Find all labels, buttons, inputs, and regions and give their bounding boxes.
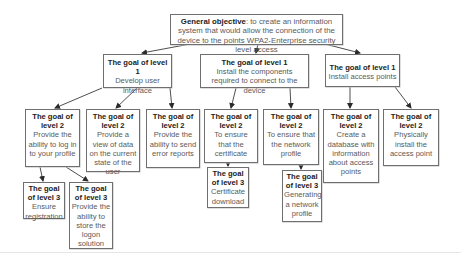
level2-text: Create a database with information about… (326, 130, 376, 176)
level2-text: Provide the ability to log in to your pr… (28, 130, 77, 158)
level2-text: Physically install the access point (386, 130, 436, 158)
level2-goal-view-data: The goal of level 2 Provide a view of da… (86, 109, 140, 172)
level2-goal-install-access-point: The goal of level 2 Physically install t… (383, 109, 439, 166)
level1-text: Install the components required to conne… (203, 67, 306, 95)
level3-goal-certificate-download: The goal of level 3 Certificate download (207, 167, 249, 208)
level2-title: The goal of level 2 (266, 112, 316, 130)
general-objective-label: General objective (181, 17, 246, 26)
level3-title: The goal of level 3 (25, 184, 63, 202)
level2-text: To ensure that the certificate (207, 130, 255, 158)
level2-title: The goal of level 2 (326, 112, 376, 130)
level1-text: Develop user interface (106, 76, 169, 94)
level1-goal-install-access-points: The goal of level 1 Install access point… (325, 54, 400, 87)
level3-title: The goal of level 3 (284, 172, 320, 190)
level3-text: Ensure registration (25, 202, 63, 220)
level1-title: The goal of level 1 (106, 58, 169, 76)
level1-title: The goal of level 1 (328, 63, 397, 72)
level2-goal-database: The goal of level 2 Create a database wi… (323, 109, 379, 183)
level1-text: Install access points (328, 72, 397, 81)
level3-text: Provide the ability to store the logon s… (71, 202, 111, 248)
level2-text: Provide a view of data on the current st… (89, 130, 137, 176)
level2-text: Provide the ability to send error report… (149, 130, 197, 158)
level2-goal-login: The goal of level 2 Provide the ability … (25, 109, 80, 167)
general-objective-box: General objective: to create an informat… (170, 14, 343, 45)
level2-title: The goal of level 2 (28, 112, 77, 130)
level2-title: The goal of level 2 (207, 112, 255, 130)
level2-title: The goal of level 2 (386, 112, 436, 130)
level1-goal-install-components: The goal of level 1 Install the componen… (200, 54, 309, 88)
level2-text: To ensure that the network profile (266, 130, 316, 158)
level3-text: Certificate download (209, 187, 247, 205)
level3-goal-registration: The goal of level 3 Ensure registration (23, 182, 65, 219)
page-divider (0, 252, 461, 253)
level1-goal-develop-ui: The goal of level 1 Develop user interfa… (103, 54, 172, 88)
level3-goal-generate-network-profile: The goal of level 3 Generating a network… (282, 170, 322, 222)
level2-goal-certificate: The goal of level 2 To ensure that the c… (204, 109, 258, 163)
level3-goal-store-logon: The goal of level 3 Provide the ability … (69, 182, 113, 249)
level3-text: Generating a network profile (284, 190, 320, 218)
level2-goal-network-profile: The goal of level 2 To ensure that the n… (263, 109, 319, 165)
level2-goal-error-reports: The goal of level 2 Provide the ability … (146, 109, 200, 168)
level3-title: The goal of level 3 (209, 169, 247, 187)
level1-title: The goal of level 1 (203, 58, 306, 67)
level2-title: The goal of level 2 (149, 112, 197, 130)
level2-title: The goal of level 2 (89, 112, 137, 130)
level3-title: The goal of level 3 (71, 184, 111, 202)
